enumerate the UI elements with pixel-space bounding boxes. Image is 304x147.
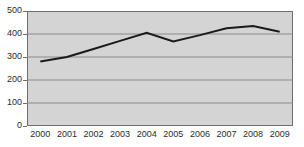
data-series-group: [40, 26, 279, 62]
x-axis-tick-label: 2009: [270, 130, 290, 139]
y-axis-tick-mark: [23, 103, 27, 104]
y-axis-tick-mark: [23, 34, 27, 35]
y-axis-tick-mark: [23, 126, 27, 127]
gridlines: [27, 34, 293, 103]
x-axis-tick-label: 2002: [83, 130, 103, 139]
x-axis-tick-label: 2000: [30, 130, 50, 139]
y-axis-tick-mark: [23, 80, 27, 81]
y-axis-tick-label: 400: [7, 29, 22, 38]
chart-title: [0, 0, 304, 1]
x-axis-tick-label: 2001: [57, 130, 77, 139]
y-axis: 0100200300400500: [0, 0, 22, 147]
plot-wrapper: [27, 11, 293, 126]
data-line: [40, 26, 279, 62]
y-axis-tick-mark: [23, 11, 27, 12]
y-axis-tick-label: 200: [7, 75, 22, 84]
x-axis-tick-label: 2007: [216, 130, 236, 139]
y-axis-tick-label: 0: [17, 121, 22, 130]
x-axis-tick-label: 2006: [190, 130, 210, 139]
x-axis-tick-label: 2008: [243, 130, 263, 139]
y-axis-tick-label: 100: [7, 98, 22, 107]
y-axis-tick-mark: [23, 57, 27, 58]
x-axis-tick-label: 2003: [110, 130, 130, 139]
y-axis-tick-label: 500: [7, 6, 22, 15]
x-axis: 2000200120022003200420052006200720082009: [27, 130, 293, 144]
x-axis-tick-label: 2005: [163, 130, 183, 139]
x-axis-tick-label: 2004: [137, 130, 157, 139]
line-chart: 0100200300400500 20002001200220032004200…: [0, 0, 304, 147]
chart-canvas: [27, 11, 293, 126]
y-axis-tick-label: 300: [7, 52, 22, 61]
